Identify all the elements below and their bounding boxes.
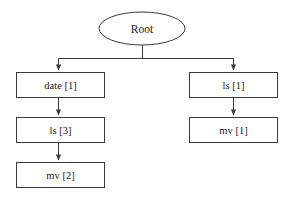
right-node-1-shape[interactable]	[190, 73, 278, 98]
root-node-shape[interactable]	[99, 12, 185, 45]
diagram-graphics	[0, 0, 293, 210]
left-node-1-shape[interactable]	[17, 73, 105, 98]
tree-diagram: Root date [1] ls [3] mv [2] ls [1] mv [1…	[0, 0, 293, 210]
left-node-3-shape[interactable]	[17, 163, 105, 188]
left-node-2-shape[interactable]	[17, 118, 105, 143]
right-node-2-shape[interactable]	[190, 118, 278, 143]
